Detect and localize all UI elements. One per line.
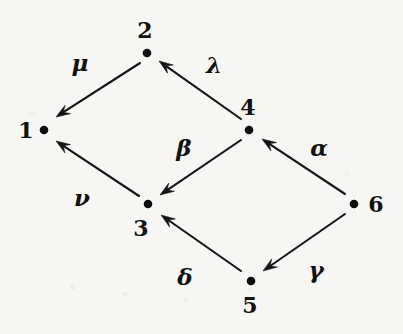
arrowhead-icon (56, 105, 70, 117)
edge-shaft (269, 214, 345, 267)
edge-mu (56, 63, 140, 117)
node-label-3: 3 (133, 217, 148, 239)
node-dot-6 (350, 200, 359, 209)
arrowhead-icon (161, 215, 175, 227)
arrowhead-icon (56, 141, 70, 153)
edge-delta (161, 215, 241, 271)
node-dot-1 (40, 126, 49, 135)
edge-shaft (165, 65, 241, 119)
edge-shaft (268, 143, 345, 194)
node-dot-5 (247, 277, 256, 286)
node-dot-3 (144, 200, 153, 209)
edges-layer (56, 61, 345, 271)
arrowhead-icon (262, 139, 276, 151)
quiver-diagram-figure: 123456 μλβανδγ (0, 0, 403, 334)
edge-nu (56, 141, 139, 196)
edge-alpha (262, 139, 345, 194)
node-label-2: 2 (137, 19, 152, 41)
edge-gamma (263, 214, 345, 271)
arrowhead-icon (159, 61, 173, 73)
edge-label-lambda: λ (206, 53, 222, 76)
edge-label-mu: μ (72, 51, 89, 74)
edge-label-nu: ν (74, 186, 90, 209)
edge-label-gamma: γ (308, 258, 323, 281)
nodes-layer (40, 49, 359, 286)
node-label-5: 5 (242, 294, 257, 316)
node-dot-4 (245, 126, 254, 135)
node-label-1: 1 (18, 119, 33, 141)
edge-label-alpha: α (310, 136, 328, 159)
node-dot-2 (143, 49, 152, 58)
edge-lambda (159, 61, 241, 119)
node-label-6: 6 (368, 193, 383, 215)
node-label-4: 4 (240, 96, 255, 118)
edge-label-beta: β (176, 136, 191, 159)
graph-canvas (0, 0, 403, 334)
arrowhead-icon (263, 259, 277, 271)
arrowhead-icon (160, 183, 174, 195)
edge-label-delta: δ (177, 265, 192, 288)
edge-beta (160, 140, 241, 195)
